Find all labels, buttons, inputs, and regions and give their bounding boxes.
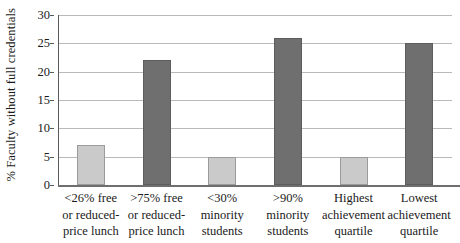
- bar: [340, 157, 368, 185]
- x-tick-label-line: minority: [255, 207, 321, 224]
- x-tick-label-line: or reduced-: [124, 207, 190, 224]
- x-tick-label-line: Highest: [321, 190, 387, 207]
- plot-area: [58, 15, 452, 185]
- x-tick-label-line: >90%: [255, 190, 321, 207]
- x-tick-label-line: Lowest: [386, 190, 452, 207]
- x-tick-label-line: or reduced-: [58, 207, 124, 224]
- x-tick-label-line: minority: [189, 207, 255, 224]
- x-tick-label-line: price lunch: [124, 223, 190, 240]
- y-tick-mark: [50, 43, 54, 44]
- y-tick-label: 15: [38, 94, 51, 107]
- x-tick-label: <26% freeor reduced-price lunch: [58, 190, 124, 240]
- x-tick-label: Lowestachievementquartile: [386, 190, 452, 240]
- x-axis-line: [58, 185, 460, 187]
- y-tick-mark: [50, 100, 54, 101]
- bar-chart: % Faculty without full credentials 05101…: [0, 0, 460, 243]
- bar: [405, 43, 433, 185]
- y-tick-mark: [50, 128, 54, 129]
- x-tick-label: >90%minoritystudents: [255, 190, 321, 240]
- x-tick-label: >75% freeor reduced-price lunch: [124, 190, 190, 240]
- x-tick-label: Highestachievementquartile: [321, 190, 387, 240]
- x-tick-label-line: achievement: [386, 207, 452, 224]
- y-tick-mark: [50, 157, 54, 158]
- y-tick-label: 20: [38, 65, 51, 78]
- bar: [274, 38, 302, 185]
- x-tick-label-line: <26% free: [58, 190, 124, 207]
- y-tick-mark: [50, 72, 54, 73]
- y-axis-ticks: 051015202530: [22, 0, 54, 190]
- bar: [143, 60, 171, 185]
- bar-series: [58, 15, 452, 185]
- x-tick-label-line: <30%: [189, 190, 255, 207]
- x-tick-label-line: students: [189, 223, 255, 240]
- y-axis-title-text: % Faculty without full credentials: [5, 8, 18, 182]
- bar: [208, 157, 236, 185]
- x-tick-label-line: students: [255, 223, 321, 240]
- x-tick-label-line: quartile: [386, 223, 452, 240]
- y-tick-label: 25: [38, 37, 51, 50]
- x-tick-label-line: achievement: [321, 207, 387, 224]
- x-tick-label-line: quartile: [321, 223, 387, 240]
- x-axis-labels: <26% freeor reduced-price lunch>75% free…: [58, 190, 452, 243]
- y-tick-mark: [50, 185, 54, 186]
- x-tick-label: <30%minoritystudents: [189, 190, 255, 240]
- x-tick-label-line: >75% free: [124, 190, 190, 207]
- y-tick-label: 10: [38, 122, 51, 135]
- x-tick-label-line: price lunch: [58, 223, 124, 240]
- y-tick-label: 30: [38, 9, 51, 22]
- y-tick-mark: [50, 15, 54, 16]
- y-axis-title: % Faculty without full credentials: [0, 0, 22, 190]
- bar: [77, 145, 105, 185]
